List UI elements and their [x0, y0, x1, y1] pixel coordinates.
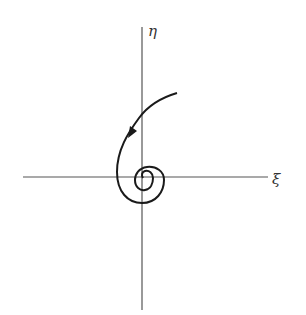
phase-plane-diagram	[0, 0, 306, 315]
spiral-trajectory	[117, 93, 177, 203]
eta-axis-label: η	[148, 24, 157, 39]
direction-arrow-icon	[128, 126, 137, 138]
xi-axis-label: ξ	[272, 172, 280, 187]
